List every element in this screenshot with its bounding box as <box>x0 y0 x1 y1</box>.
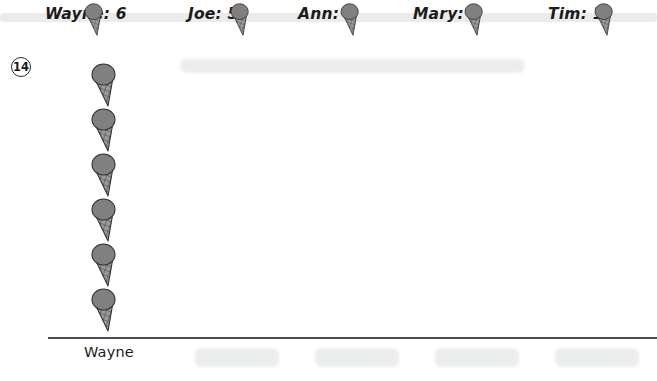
pictograph-unit-icon <box>88 242 128 288</box>
worksheet-page: Wayne: 6Joe: 5Ann: 3Mary: 4Tim: 1 14 Way… <box>0 0 657 381</box>
erased-smudge-axis-label <box>315 348 399 367</box>
ice-cream-cone-icon <box>82 2 112 37</box>
tally-cone-icon-mary <box>462 2 492 37</box>
pictograph-unit-icon <box>88 152 128 198</box>
erased-smudge-axis-label <box>435 348 519 367</box>
erased-smudge-axis-label <box>555 348 639 367</box>
tally-cone-icon-wayne <box>82 2 112 37</box>
problem-number-badge: 14 <box>11 57 31 77</box>
ice-cream-cone-icon <box>88 107 128 153</box>
ice-cream-cone-icon <box>338 2 368 37</box>
axis-label-wayne: Wayne <box>84 344 134 360</box>
pictograph-column-wayne <box>88 62 144 338</box>
tally-cone-icon-tim <box>592 2 622 37</box>
tally-cone-icon-joe <box>228 2 258 37</box>
erased-smudge-axis-label <box>195 348 279 367</box>
pictograph-unit-icon <box>88 287 128 333</box>
ice-cream-cone-icon <box>592 2 622 37</box>
ice-cream-cone-icon <box>88 197 128 243</box>
ice-cream-cone-icon <box>462 2 492 37</box>
ice-cream-cone-icon <box>228 2 258 37</box>
ice-cream-cone-icon <box>88 242 128 288</box>
ice-cream-cone-icon <box>88 287 128 333</box>
pictograph-unit-icon <box>88 197 128 243</box>
erased-smudge-title <box>180 59 525 73</box>
ice-cream-cone-icon <box>88 152 128 198</box>
category-axis-line <box>48 337 657 339</box>
tally-header-row: Wayne: 6Joe: 5Ann: 3Mary: 4Tim: 1 <box>0 0 657 42</box>
pictograph-unit-icon <box>88 107 128 153</box>
ice-cream-cone-icon <box>88 62 128 108</box>
tally-cone-icon-ann <box>338 2 368 37</box>
pictograph-unit-icon <box>88 62 128 108</box>
